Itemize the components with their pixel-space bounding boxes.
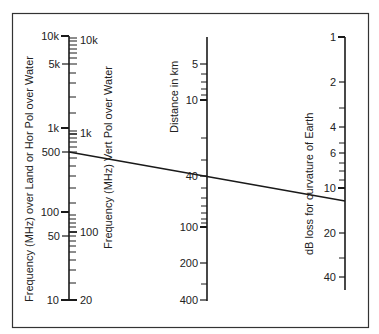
tick-label: 1k — [47, 122, 59, 134]
tick-label: 10 — [47, 294, 59, 306]
tick-label: 10 — [186, 94, 198, 106]
distance-labels: 5 10 40 100 200 400 — [180, 58, 198, 306]
db-loss-scale — [338, 37, 345, 290]
tick-label: 40 — [324, 271, 336, 283]
tick-label: 20 — [324, 227, 336, 239]
tick-label: 500 — [42, 146, 60, 158]
tick-label: 400 — [180, 294, 198, 306]
distance-scale — [200, 37, 207, 301]
tick-label: 100 — [80, 226, 98, 238]
tick-label: 1k — [80, 127, 92, 139]
frequency-land-labels: 10k 5k 1k 500 100 50 10 — [41, 30, 61, 306]
tick-label: 2 — [330, 76, 336, 88]
frequency-vert-title: Frequency (MHz) Vert Pol over Water — [102, 66, 114, 249]
frequency-vert-labels: 10k 1k 100 20 — [80, 34, 98, 306]
distance-title: Distance in km — [168, 61, 180, 133]
db-loss-title: dB loss for curvature of Earth — [303, 113, 315, 255]
tick-label: 6 — [330, 147, 336, 159]
tick-label: 4 — [330, 121, 336, 133]
frequency-land-title: Frequency (MHz) over Land or Hor Pol ove… — [23, 56, 35, 302]
tick-label: 100 — [180, 221, 198, 233]
tick-label: 10k — [80, 34, 98, 46]
tick-label: 10k — [41, 30, 59, 42]
tick-label: 200 — [180, 257, 198, 269]
tick-label: 5k — [48, 58, 60, 70]
tick-label: 40 — [186, 170, 198, 182]
tick-label: 1 — [330, 31, 336, 43]
tick-label: 20 — [80, 294, 92, 306]
tick-label: 100 — [41, 206, 59, 218]
tick-label: 50 — [48, 230, 60, 242]
tick-label: 10 — [324, 182, 336, 194]
frequency-scale — [61, 36, 77, 301]
nomogram: 10k 5k 1k 500 100 50 10 10k 1k 100 20 Fr… — [0, 0, 379, 334]
db-loss-labels: 1 2 4 6 10 20 40 — [324, 31, 336, 283]
tick-label: 5 — [192, 58, 198, 70]
